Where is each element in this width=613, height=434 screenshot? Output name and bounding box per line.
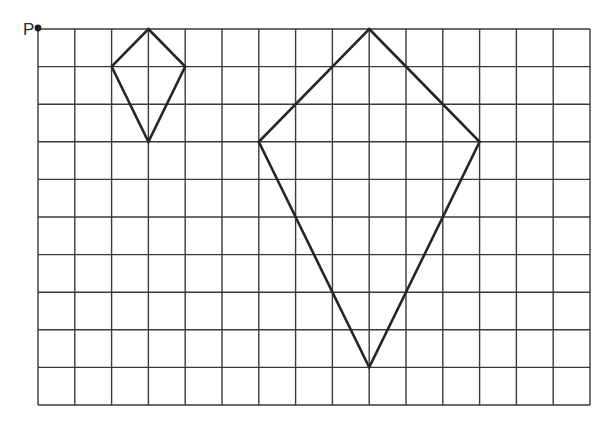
point-p-label: P [23, 20, 34, 39]
point-p-dot [35, 25, 42, 32]
kite-enlargement-diagram: P [0, 0, 613, 434]
